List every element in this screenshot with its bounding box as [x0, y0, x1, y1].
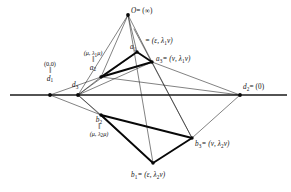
node-d1	[48, 93, 52, 97]
label-b2-coords-head: (μ, λ	[90, 130, 101, 137]
label-d1-name-wrap: d1	[31, 75, 69, 82]
label-a1-coords-index: 1	[164, 40, 167, 46]
label-a2-stack: (μ, λ1μ) ‖ a2	[68, 50, 118, 71]
label-a2-coords-tail: μ)	[97, 49, 102, 56]
line-d2-a2	[101, 77, 240, 95]
line-d1-b2	[50, 95, 101, 115]
label-a3: a3= (ν, λ1ν)	[156, 56, 191, 63]
label-a1: a1	[130, 44, 136, 51]
diagram-svg	[0, 0, 291, 192]
label-b2-stack: b2 ‖ (μ, λ2μ)	[72, 116, 126, 137]
node-a3	[150, 60, 153, 63]
label-d3-index: 3	[76, 84, 79, 90]
edge-b1-b3	[153, 138, 192, 163]
label-d3: d3	[72, 82, 78, 89]
label-a1-coords: = (ε, λ1ν)	[145, 38, 173, 45]
label-b1-coords-tail: ν)	[159, 171, 165, 179]
line-d2-b3	[192, 95, 240, 138]
line-d2-a3	[152, 62, 240, 95]
label-b2-coords-tail: μ)	[103, 130, 108, 137]
label-b3-coords-head: = (ν, λ	[201, 140, 221, 148]
node-b3	[190, 136, 193, 139]
label-b3-coords-index: 2	[221, 143, 224, 149]
label-b3-coords-tail: ν)	[224, 140, 230, 148]
node-d3	[76, 93, 80, 97]
label-a1-coords-head: = (ε, λ	[145, 37, 164, 45]
line-b3-a3	[152, 62, 192, 138]
label-a3-coords-head: = (ν, λ	[162, 55, 182, 63]
label-O: O= (∞)	[131, 8, 153, 15]
label-a1-coords-tail: ν)	[167, 37, 173, 45]
label-a2-index: 2	[94, 66, 97, 72]
label-a3-coords-index: 1	[182, 58, 185, 64]
label-d2: d2= (0)	[243, 84, 264, 91]
label-b1-coords-head: = (ε, λ	[137, 171, 156, 179]
label-a1-index: 1	[134, 46, 137, 52]
node-O	[126, 13, 130, 17]
label-d1-name: d	[47, 74, 51, 83]
label-O-value: = (∞)	[136, 7, 152, 15]
label-d2-value: = (0)	[249, 83, 264, 91]
label-a2-coords-index: 1	[95, 52, 98, 58]
figure-canvas: O= (∞) a1 = (ε, λ1ν) a3= (ν, λ1ν) (μ, λ1…	[0, 0, 291, 192]
label-b2-coords-index: 2	[101, 132, 104, 138]
label-a2-name-wrap: a2	[68, 64, 118, 71]
label-b1: b1= (ε, λ2ν)	[131, 172, 165, 179]
label-b1-coords-index: 2	[157, 174, 160, 180]
node-b1	[151, 161, 154, 164]
node-a2	[99, 75, 102, 78]
label-d1-index: 1	[51, 77, 54, 83]
label-b3: b3= (ν, λ2ν)	[195, 141, 230, 148]
label-b2-index: 2	[100, 119, 103, 125]
label-d1-stack: (0,0) ‖ d1	[31, 61, 69, 82]
label-a2-name: a	[90, 63, 94, 72]
label-b2-coords: (μ, λ2μ)	[72, 131, 126, 137]
node-d2	[238, 93, 242, 97]
label-a3-coords-tail: ν)	[185, 55, 191, 63]
